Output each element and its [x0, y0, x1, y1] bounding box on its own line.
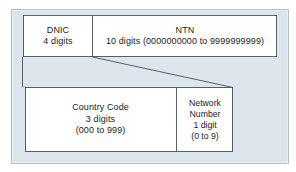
field-network-number-label2: Number: [190, 109, 221, 120]
field-country-code-label: Country Code: [72, 102, 129, 114]
field-network-number-detail: 1 digit: [193, 120, 216, 131]
field-network-number: Network Number 1 digit (0 to 9): [177, 88, 233, 151]
field-country-code: Country Code 3 digits (000 to 999): [26, 88, 175, 151]
field-dnic: DNIC 4 digits: [24, 16, 92, 56]
field-dnic-detail: 4 digits: [43, 36, 72, 48]
expansion-diagonal-guide: [93, 57, 234, 88]
field-network-number-range: (0 to 9): [191, 131, 219, 142]
field-ntn: NTN 10 digits (0000000000 to 9999999999): [94, 16, 276, 56]
diagram-canvas: DNIC 4 digits NTN 10 digits (0000000000 …: [0, 0, 296, 172]
field-country-code-detail: 3 digits: [86, 114, 115, 126]
field-network-number-label: Network: [189, 98, 221, 109]
field-ntn-detail: 10 digits (0000000000 to 9999999999): [106, 36, 264, 48]
field-ntn-label: NTN: [176, 25, 195, 37]
field-country-code-range: (000 to 999): [76, 125, 126, 137]
field-dnic-label: DNIC: [47, 25, 69, 37]
